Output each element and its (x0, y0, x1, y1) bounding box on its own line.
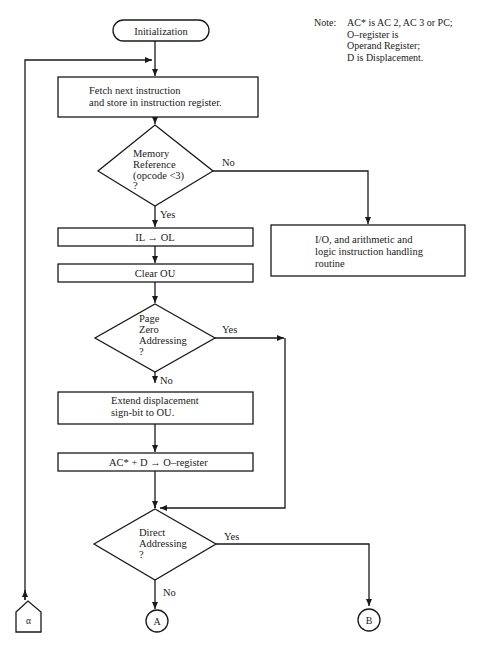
ac-d-label: AC* + D → O–register (109, 457, 208, 468)
direct-line-2: Addressing (139, 538, 188, 549)
il-ol-label: IL → OL (135, 232, 174, 243)
direct-line-1: Direct (139, 527, 165, 538)
memref-line-4: ? (133, 180, 138, 191)
extend-line-2: sign-bit to OU. (111, 407, 174, 418)
fetch-line-1: Fetch next instruction (89, 85, 181, 96)
direct-yes-label: Yes (224, 531, 239, 542)
direct-addressing-decision: Direct Addressing ? (94, 509, 216, 580)
note-line-2: O–register is (347, 29, 453, 41)
memref-line-3: (opcode <3) (133, 170, 185, 182)
clear-ou-box: Clear OU (58, 264, 253, 282)
pagezero-no-label: No (160, 375, 173, 386)
pagezero-line-1: Page (139, 313, 160, 324)
io-routine-box: I/O, and arithmetic and logic instructio… (271, 225, 465, 276)
flowchart: Initialization Fetch next instruction an… (0, 0, 481, 648)
direct-line-3: ? (139, 549, 144, 560)
io-line-1: I/O, and arithmetic and (315, 234, 413, 245)
connector-a-label: A (153, 616, 161, 627)
io-line-3: routine (315, 258, 345, 269)
memref-no-label: No (222, 157, 235, 168)
clear-ou-label: Clear OU (135, 268, 176, 279)
ac-plus-d-box: AC* + D → O–register (58, 453, 253, 471)
note-line-4: D is Displacement. (347, 52, 453, 64)
connector-b-label: B (366, 615, 373, 626)
connector-alpha: α (16, 601, 41, 632)
io-line-2: logic instruction handling (315, 246, 424, 257)
note-label: Note: (314, 17, 336, 29)
memory-reference-decision: Memory Reference (opcode <3) ? (98, 125, 213, 206)
note-line-1: AC* is AC 2, AC 3 or PC; (347, 17, 453, 29)
il-to-ol-box: IL → OL (58, 228, 253, 246)
pagezero-line-4: ? (139, 346, 144, 357)
memref-yes-label: Yes (160, 209, 175, 220)
pagezero-yes-label: Yes (222, 324, 237, 335)
note-line-3: Operand Register; (347, 40, 453, 52)
page-zero-decision: Page Zero Addressing ? (95, 304, 215, 372)
memref-line-2: Reference (133, 159, 176, 170)
extend-line-1: Extend displacement (111, 395, 199, 406)
connector-a: A (146, 610, 168, 632)
connector-alpha-label: α (26, 616, 31, 626)
extend-displacement-box: Extend displacement sign-bit to OU. (58, 392, 253, 424)
arrow-memref-no (213, 171, 368, 224)
connector-b: B (358, 609, 380, 631)
initialization-terminal: Initialization (113, 20, 209, 41)
fetch-line-2: and store in instruction register. (89, 97, 222, 108)
initialization-label: Initialization (134, 26, 188, 37)
arrow-direct-yes (216, 544, 369, 606)
memref-line-1: Memory (133, 148, 170, 159)
pagezero-line-3: Addressing (139, 335, 188, 346)
pagezero-line-2: Zero (139, 324, 159, 335)
fetch-instruction-box: Fetch next instruction and store in inst… (58, 77, 258, 117)
direct-no-label: No (163, 587, 176, 598)
